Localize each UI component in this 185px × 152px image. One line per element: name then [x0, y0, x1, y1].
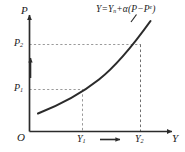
- origin-label: O: [17, 132, 25, 143]
- supply-curve: [38, 21, 151, 114]
- x-tick-y2-sub: 2: [141, 137, 144, 144]
- y-tick-p1-sub: 1: [20, 86, 23, 93]
- y-tick-label-p1: P1: [14, 83, 23, 94]
- aggregate-supply-figure: P Y O P2 P1 Y1 Y2 Y=Yn+α(P−Pe): [0, 0, 185, 152]
- x-tick-label-y1: Y1: [77, 134, 86, 145]
- y-tick-label-p2: P2: [14, 38, 23, 49]
- curve-equation-label: Y=Yn+α(P−Pe): [96, 5, 156, 15]
- x-axis-label: Y: [172, 133, 178, 144]
- equation-leader-line: [131, 15, 137, 23]
- x-tick-label-y2: Y2: [135, 134, 144, 145]
- figure-canvas: [0, 0, 185, 152]
- x-tick-y1-sub: 1: [83, 137, 86, 144]
- guide-lines-p2: [30, 45, 142, 132]
- equation-close-paren: ): [152, 4, 155, 14]
- y-axis-label: P: [21, 5, 28, 16]
- y-tick-p2-sub: 2: [20, 41, 23, 48]
